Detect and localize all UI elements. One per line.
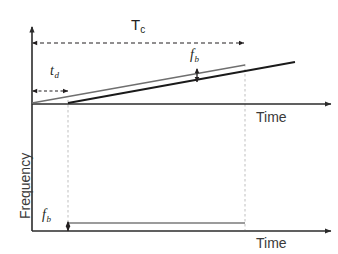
beat-frequency-subscript-bottom: b	[46, 214, 51, 224]
figure-canvas: Frequency Tc td fb fb Time Time	[0, 0, 338, 254]
frequency-axis-label: Frequency	[18, 153, 32, 219]
transmitted-chirp-line	[32, 65, 245, 103]
chirp-duration-label: Tc	[131, 17, 145, 32]
beat-frequency-label-top: fb	[190, 48, 198, 62]
beat-frequency-subscript-top: b	[194, 54, 199, 64]
delay-label: td	[50, 64, 58, 78]
chirp-duration-subscript: c	[140, 24, 145, 35]
chirp-duration-symbol: T	[131, 16, 140, 33]
top-time-axis-label: Time	[256, 110, 287, 124]
delay-subscript: d	[54, 70, 59, 80]
beat-frequency-label-bottom: fb	[42, 208, 50, 222]
received-chirp-line	[68, 62, 295, 103]
bottom-time-axis-label: Time	[256, 236, 287, 250]
